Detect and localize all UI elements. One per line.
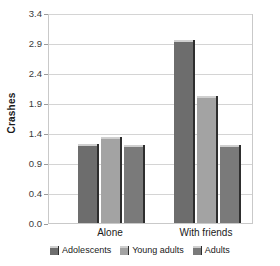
bar-face (78, 144, 99, 223)
y-axis-tick-label: 2.9 (16, 38, 42, 49)
swatch-top-highlight (193, 246, 201, 248)
bar-side-shadow (216, 96, 218, 223)
bar-face (101, 137, 122, 223)
gridline (49, 104, 252, 105)
bar-side-shadow (143, 145, 145, 223)
legend-swatch-icon (193, 246, 202, 255)
plot-area (48, 14, 253, 224)
legend-swatch-icon (120, 246, 129, 255)
bar-top-highlight (220, 145, 239, 147)
legend-item-adults[interactable]: Adults (193, 245, 230, 255)
y-axis-tick-label: 0.0 (16, 218, 42, 229)
bar-young-adults-alone (101, 137, 122, 223)
bar-chart: Crashes 0.00.40.91.41.92.42.93.4 AloneWi… (0, 0, 280, 266)
legend-label: Young adults (132, 245, 184, 255)
bar-side-shadow (120, 137, 122, 223)
bar-adolescents-with-friends (174, 40, 195, 223)
y-axis-tick-label: 2.4 (16, 68, 42, 79)
y-axis-tick-label: 1.4 (16, 128, 42, 139)
bar-side-shadow (239, 145, 241, 223)
y-axis-tick-label: 3.4 (16, 8, 42, 19)
swatch-side-shadow (128, 246, 129, 255)
bar-side-shadow (193, 40, 195, 223)
bar-top-highlight (197, 96, 216, 98)
bar-top-highlight (101, 137, 120, 139)
swatch-top-highlight (120, 246, 128, 248)
bar-face (197, 96, 218, 223)
legend-swatch-icon (50, 246, 59, 255)
swatch-top-highlight (50, 246, 58, 248)
gridline (49, 74, 252, 75)
swatch-side-shadow (58, 246, 59, 255)
y-axis-tick-label: 0.4 (16, 188, 42, 199)
legend-item-adolescents[interactable]: Adolescents (50, 245, 111, 255)
gridline (49, 14, 252, 15)
legend-label: Adults (205, 245, 230, 255)
bar-face (220, 145, 241, 223)
x-axis-label-with-friends: With friends (166, 227, 246, 238)
x-axis-label-alone: Alone (70, 227, 150, 238)
y-axis-tick-mark (44, 224, 48, 225)
bar-face (124, 145, 145, 223)
y-axis-tick-label: 0.9 (16, 158, 42, 169)
bar-top-highlight (78, 144, 97, 146)
gridline (49, 44, 252, 45)
gridline (49, 134, 252, 135)
swatch-side-shadow (201, 246, 202, 255)
bar-side-shadow (97, 144, 99, 223)
bar-top-highlight (174, 40, 193, 42)
legend-item-young-adults[interactable]: Young adults (120, 245, 184, 255)
chart-legend: AdolescentsYoung adultsAdults (0, 245, 280, 255)
legend-label: Adolescents (62, 245, 111, 255)
bar-top-highlight (124, 145, 143, 147)
bar-face (174, 40, 195, 223)
y-axis-tick-label: 1.9 (16, 98, 42, 109)
bar-adults-alone (124, 145, 145, 223)
bar-adolescents-alone (78, 144, 99, 223)
bar-adults-with-friends (220, 145, 241, 223)
bar-young-adults-with-friends (197, 96, 218, 223)
